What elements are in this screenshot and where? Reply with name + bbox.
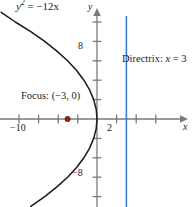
focus-label-suffix: ) <box>77 90 81 101</box>
parabola-figure: y2 = −12x y x −10 2 8 −8 Focus: (−3, 0) … <box>0 0 196 207</box>
equation-label: y2 = −12x <box>16 1 59 12</box>
y-tick-label-neg8: −8 <box>72 168 83 178</box>
y-axis-label: y <box>88 2 92 12</box>
equation-rest: = −12x <box>25 0 59 12</box>
directrix-label-prefix: Directrix: <box>122 53 165 64</box>
focus-label-value: −3, 0 <box>55 90 77 101</box>
x-tick-label-neg10: −10 <box>10 123 26 133</box>
y-tick-label-8: 8 <box>78 41 83 51</box>
focus-label-prefix: Focus: ( <box>21 90 55 101</box>
directrix-label-rest: = 3 <box>170 53 186 64</box>
focus-point <box>65 116 71 122</box>
plot-canvas <box>0 0 196 207</box>
x-axis-group <box>0 115 188 124</box>
y-axis-group <box>93 8 102 207</box>
y-axis-arrow <box>93 8 101 16</box>
directrix-label: Directrix: x = 3 <box>122 54 187 65</box>
focus-label: Focus: (−3, 0) <box>21 91 80 102</box>
x-axis-label: x <box>183 122 187 132</box>
x-tick-label-2: 2 <box>107 123 112 133</box>
